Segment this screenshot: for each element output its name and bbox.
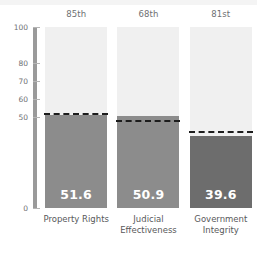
y-axis-label-70: 70: [2, 78, 28, 86]
category-label-judicial-effectiveness: Judicial Effectiveness: [112, 214, 184, 236]
percentile-label-row: 85th 68th 81st: [40, 6, 257, 22]
percentile-label-government-integrity: 81st: [185, 6, 257, 22]
category-label-government-integrity: Government Integrity: [185, 214, 257, 236]
benchmark-line-property-rights: [44, 113, 108, 115]
benchmark-slot: [40, 27, 112, 208]
y-tick-mark-80: [33, 63, 40, 64]
y-tick-mark-50: [33, 117, 40, 118]
category-label-row: Property Rights Judicial Effectiveness G…: [40, 214, 257, 236]
y-tick-mark-60: [33, 99, 40, 100]
y-axis-label-50: 50: [2, 114, 28, 122]
y-tick-mark-0: [33, 208, 40, 209]
bar-chart: 85th 68th 81st 100 80 70 60 50 0: [0, 0, 257, 260]
benchmark-series: [40, 27, 257, 208]
percentile-label-property-rights: 85th: [40, 6, 112, 22]
benchmark-line-judicial-effectiveness: [116, 120, 180, 122]
benchmark-slot: [185, 27, 257, 208]
y-axis-label-100: 100: [2, 24, 28, 32]
benchmark-slot: [112, 27, 184, 208]
y-axis-label-0: 0: [2, 205, 28, 213]
y-axis-label-60: 60: [2, 96, 28, 104]
percentile-label-judicial-effectiveness: 68th: [112, 6, 184, 22]
top-banding-strip: [0, 0, 257, 5]
plot-area: 51.6 50.9 39.6: [40, 27, 257, 208]
y-tick-mark-70: [33, 81, 40, 82]
y-axis-label-80: 80: [2, 60, 28, 68]
category-label-property-rights: Property Rights: [40, 214, 112, 236]
benchmark-line-government-integrity: [189, 131, 253, 133]
y-tick-mark-100: [33, 27, 40, 28]
